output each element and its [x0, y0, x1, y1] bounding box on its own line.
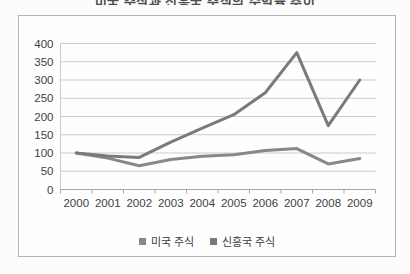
x-axis-label: 2002	[126, 197, 152, 209]
x-axis-label: 2009	[347, 197, 373, 209]
chart-svg: 0501001502002503003504002000200120022003…	[19, 16, 395, 256]
y-axis-label: 0	[47, 184, 53, 196]
y-axis-label: 300	[34, 74, 53, 86]
y-axis-label: 350	[34, 56, 53, 68]
x-axis-label: 2003	[158, 197, 184, 209]
x-axis-label: 2005	[221, 197, 247, 209]
y-axis-label: 250	[34, 92, 53, 104]
x-axis-label: 2008	[315, 197, 341, 209]
legend-label-us-stocks: 미국 주식	[151, 233, 194, 249]
y-axis-label: 100	[34, 147, 53, 159]
y-axis-label: 200	[34, 111, 53, 123]
legend-label-emerging-stocks: 신흥국 주식	[222, 233, 275, 249]
cropped-chart-title-text: 미국 주식과 신흥국 주식의 수익률 추이	[95, 0, 316, 5]
y-axis-label: 400	[34, 38, 53, 50]
y-axis-label: 50	[41, 165, 54, 177]
legend-swatch-icon	[139, 238, 146, 245]
x-axis-label: 2000	[63, 197, 89, 209]
x-axis-label: 2007	[284, 197, 310, 209]
legend-item-emerging-stocks: 신흥국 주식	[210, 233, 275, 249]
x-axis-label: 2006	[252, 197, 278, 209]
y-axis-label: 150	[34, 129, 53, 141]
series-line-1	[76, 53, 360, 158]
x-axis-label: 2004	[189, 197, 215, 209]
cropped-chart-title: 미국 주식과 신흥국 주식의 수익률 추이	[0, 0, 410, 5]
x-axis-label: 2001	[95, 197, 121, 209]
legend-swatch-icon	[210, 238, 217, 245]
chart-legend: 미국 주식 신흥국 주식	[19, 234, 395, 248]
chart-frame: 0501001502002503003504002000200120022003…	[18, 15, 396, 257]
legend-item-us-stocks: 미국 주식	[139, 233, 194, 249]
